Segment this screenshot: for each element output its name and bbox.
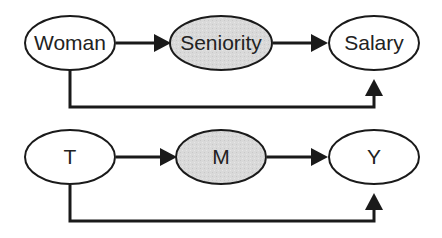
arrowhead-icon xyxy=(365,193,383,210)
edge-woman-to-seniority xyxy=(116,34,171,52)
edge-seniority-to-salary xyxy=(273,34,328,52)
mediation-diagrams: Woman Seniority Salary T xyxy=(0,0,442,238)
arrowhead-icon xyxy=(154,34,171,52)
node-label: T xyxy=(64,145,77,168)
arrowhead-icon xyxy=(311,148,328,166)
node-label: Salary xyxy=(344,31,404,54)
edge-woman-to-salary xyxy=(70,70,383,107)
node-label: Woman xyxy=(34,31,106,54)
node-label: Seniority xyxy=(180,31,262,54)
node-t: T xyxy=(25,130,115,184)
node-m: M xyxy=(176,130,266,184)
edge-t-to-m xyxy=(116,148,177,166)
diagram-top: Woman Seniority Salary xyxy=(25,16,419,107)
node-salary: Salary xyxy=(329,16,419,70)
diagram-bottom: T M Y xyxy=(25,130,419,221)
node-label: M xyxy=(212,145,230,168)
edge-m-to-y xyxy=(267,148,328,166)
arrowhead-icon xyxy=(365,79,383,96)
node-label: Y xyxy=(367,145,381,168)
arrowhead-icon xyxy=(311,34,328,52)
node-seniority: Seniority xyxy=(170,16,272,70)
node-y: Y xyxy=(329,130,419,184)
arrowhead-icon xyxy=(160,148,177,166)
node-woman: Woman xyxy=(25,16,115,70)
edge-t-to-y xyxy=(70,185,383,221)
